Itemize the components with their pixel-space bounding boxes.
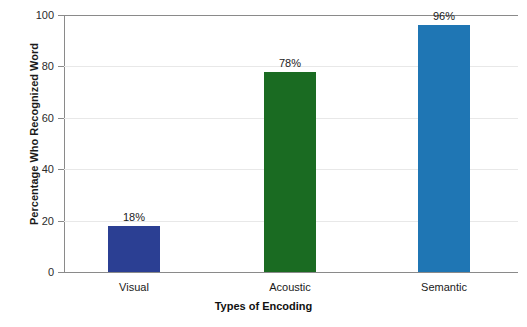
y-tick-label-80: 80 — [0, 60, 54, 72]
bar-acoustic: 78% — [264, 72, 316, 272]
plot-area: 18%78%96% — [64, 15, 518, 272]
y-tick-label-60: 60 — [0, 112, 54, 124]
bar-chart: Percentage Who Recognized Word 020406080… — [0, 0, 527, 327]
gridline-0 — [64, 272, 518, 273]
x-axis-title: Types of Encoding — [0, 300, 527, 312]
y-tick-label-100: 100 — [0, 9, 54, 21]
bar-value-label-semantic: 96% — [433, 10, 455, 22]
bar-value-label-visual: 18% — [123, 211, 145, 223]
bar-semantic: 96% — [418, 25, 470, 272]
y-tick-label-0: 0 — [0, 266, 54, 278]
bar-value-label-acoustic: 78% — [279, 57, 301, 69]
y-tick-label-20: 20 — [0, 215, 54, 227]
x-axis-label-acoustic: Acoustic — [230, 281, 350, 293]
bar-visual: 18% — [108, 226, 160, 272]
x-axis-label-semantic: Semantic — [384, 281, 504, 293]
y-tick-label-40: 40 — [0, 163, 54, 175]
x-axis-label-visual: Visual — [74, 281, 194, 293]
